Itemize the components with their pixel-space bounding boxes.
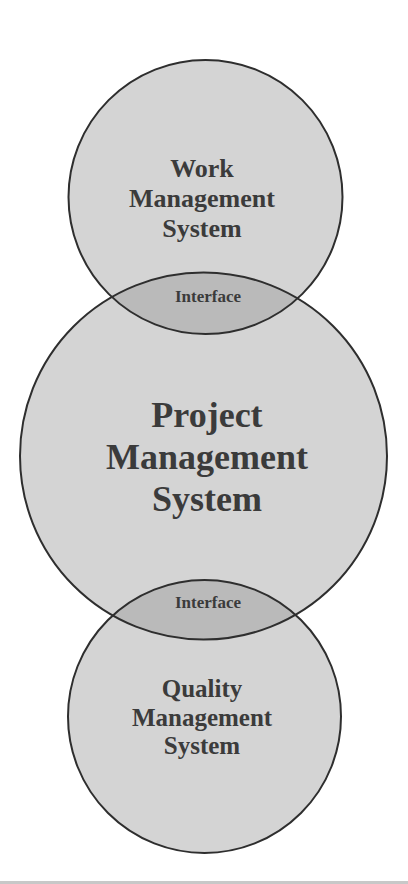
- label-line: Quality: [0, 675, 406, 704]
- label-line: System: [3, 478, 408, 520]
- work-management-system-label: Work Management System: [0, 154, 406, 244]
- interface-text: Interface: [4, 593, 408, 613]
- label-line: System: [0, 214, 406, 244]
- interface-label-top: Interface: [4, 287, 408, 307]
- label-line: Project: [3, 394, 408, 436]
- label-line: Management: [0, 184, 406, 214]
- quality-management-system-label: Quality Management System: [0, 675, 406, 761]
- interface-text: Interface: [4, 287, 408, 307]
- label-line: Work: [0, 154, 406, 184]
- label-line: Management: [3, 436, 408, 478]
- label-line: System: [0, 732, 406, 761]
- interface-label-bottom: Interface: [4, 593, 408, 613]
- label-line: Management: [0, 704, 406, 733]
- project-management-system-label: Project Management System: [3, 394, 408, 520]
